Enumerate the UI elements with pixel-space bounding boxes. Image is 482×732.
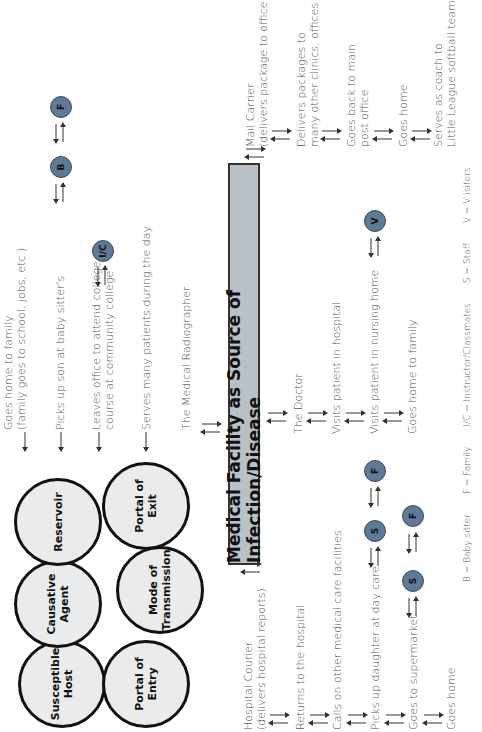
courier-step-5: Goes home: [445, 668, 458, 730]
courier-sf-bidir-arrow: [367, 486, 383, 508]
legend-item-instructor: I/C = Instructor/Classmates: [462, 303, 472, 427]
radiographer-step-3: Picks up son at baby sitter's: [54, 276, 67, 430]
supermarket-s-bidir-arrow: [405, 596, 421, 618]
node-ic: I/C: [92, 240, 114, 262]
courier-step-1: Returns to the hospital: [294, 605, 307, 730]
doctor-step-2: Visits patient in nursing home: [368, 270, 381, 434]
doctor-step-1: Visits patient in hospital: [330, 302, 343, 434]
node-f-supermarket: F: [402, 505, 424, 527]
courier-step-2: Calls on other medical care facilities: [331, 530, 344, 730]
legend-item-babysitter: B = Baby sitter: [462, 514, 472, 582]
courier-arrow-4: [384, 708, 406, 728]
node-v: V: [364, 210, 386, 232]
radiographer-step-0: The Medical Radiographer: [180, 286, 193, 430]
circle-portal-of-exit: Portal of Exit: [102, 462, 190, 550]
ic-bidir-arrow: [94, 265, 110, 287]
main-source-box: Medical Facility as Source of Infection/…: [228, 163, 260, 565]
courier-step-0: Hospital Courier (delivers hospital repo…: [242, 588, 268, 730]
mail-arrow-1: [270, 124, 292, 144]
node-b: B: [50, 156, 72, 178]
radiographer-arrow-left-2: [94, 430, 104, 452]
courier-step-3: Picks up daughter at day care: [369, 566, 382, 730]
doctor-arrow-1: [306, 406, 328, 426]
circle-causative-agent: Causative Agent: [14, 560, 102, 648]
radiographer-arrow-left-4: [20, 430, 30, 452]
legend: B = Baby sitter F = Family I/C = Instruc…: [462, 22, 472, 582]
radiographer-bidir-arrow: [200, 417, 222, 437]
legend-item-family: F = Family: [462, 447, 472, 494]
mail-arrow-3: [372, 124, 394, 144]
radiographer-arrow-left-1: [141, 430, 151, 452]
node-s-supermarket: S: [402, 570, 424, 592]
courier-s-bidir-arrow: [367, 546, 383, 568]
node-f-daughter: F: [364, 460, 386, 482]
radiographer-arrow-left-3: [56, 430, 66, 452]
radiographer-step-1: Serves many patients during the day: [140, 226, 153, 430]
node-f-babysitter: F: [50, 96, 72, 118]
mail-step-4: Serves as coach to Little League softbal…: [432, 0, 458, 147]
courier-arrow-5: [422, 708, 444, 728]
legend-item-visitors: V = V isitors: [462, 167, 472, 223]
mail-bidir-arrow: [244, 142, 266, 162]
node-s-daughter: S: [364, 520, 386, 542]
circle-mode-of-transmission: Mode of Transmission: [116, 546, 204, 634]
bf-bidir-arrow: [52, 122, 68, 144]
b-bidir-arrow: [52, 182, 68, 204]
courier-arrow-2: [308, 708, 330, 728]
doctor-step-3: Goes home to family: [406, 320, 419, 434]
circle-susceptible-host: Susceptible Host: [18, 640, 106, 728]
mail-arrow-4: [410, 124, 432, 144]
doctor-arrow-2: [344, 406, 366, 426]
main-box-title: Medical Facility as Source of Infection/…: [224, 165, 264, 563]
diagram-canvas: Susceptible Host Causative Agent Reservo…: [0, 0, 482, 732]
mail-arrow-2: [320, 124, 342, 144]
doctor-step-0: The Doctor: [292, 373, 305, 434]
supermarket-sf-bidir-arrow: [405, 532, 421, 554]
mail-step-1: Delivers packages to many other clinics,…: [295, 3, 321, 147]
courier-step-4: Goes to supermarket: [407, 614, 420, 730]
courier-arrow-3: [346, 708, 368, 728]
mail-step-2: Goes back to main post office: [345, 44, 371, 147]
circle-portal-of-entry: Portal of Entry: [102, 640, 190, 728]
courier-bidir-arrow: [240, 557, 262, 577]
mail-step-3: Goes home: [397, 85, 410, 147]
courier-arrow-1: [268, 708, 290, 728]
legend-item-staff: S = Staff: [462, 243, 472, 283]
doctor-bidir-arrow: [266, 406, 288, 426]
doctor-arrow-3: [382, 406, 404, 426]
circle-reservoir: Reservoir: [14, 478, 102, 566]
radiographer-step-4: Goes home to family (family goes to scho…: [2, 248, 28, 430]
v-bidir-arrow: [367, 236, 383, 258]
mail-step-0: Mail Carrier (delivers package to office…: [244, 0, 270, 147]
